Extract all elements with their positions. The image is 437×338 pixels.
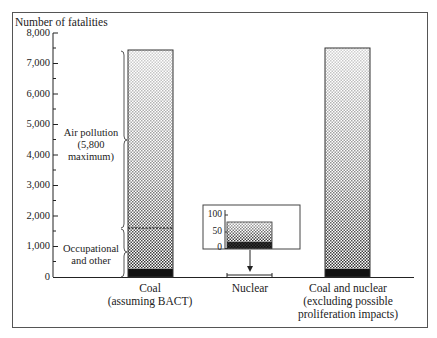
annotation-braces <box>121 51 127 277</box>
nuclear-arrow <box>247 250 253 272</box>
y-tick-7000: 7,000 <box>10 57 50 68</box>
annotation-air-line3: maximum) <box>62 151 120 163</box>
inset-tick-0: 0 <box>204 242 222 252</box>
y-tick-4000: 4,000 <box>10 149 50 160</box>
annotation-air-line2: (5,800 <box>62 139 120 151</box>
category-coal-nuclear-line1: Coal and nuclear <box>288 282 408 295</box>
y-tick-8000: 8,000 <box>10 27 50 38</box>
y-tick-6000: 6,000 <box>10 88 50 99</box>
annotation-air-pollution: Air pollution (5,800 maximum) <box>62 127 120 163</box>
category-nuclear-line1: Nuclear <box>210 282 290 295</box>
bar-coal <box>128 50 173 277</box>
inset-tick-100: 100 <box>204 209 222 219</box>
category-coal-line1: Coal <box>100 282 200 295</box>
category-coal-line2: (assuming BACT) <box>100 295 200 308</box>
inset-tick-50: 50 <box>204 226 222 236</box>
nuclear-bracket <box>227 273 272 277</box>
category-coal-nuclear-line2: (excluding possible <box>288 295 408 308</box>
y-axis <box>53 33 58 277</box>
y-tick-0: 0 <box>10 271 50 282</box>
category-coal-nuclear-line3: proliferation impacts) <box>288 308 408 321</box>
annotation-occ-line2: and other <box>62 255 120 267</box>
annotation-air-line1: Air pollution <box>62 127 120 139</box>
category-label-nuclear: Nuclear <box>210 282 290 295</box>
y-tick-2000: 2,000 <box>10 210 50 221</box>
y-tick-5000: 5,000 <box>10 118 50 129</box>
y-tick-1000: 1,000 <box>10 240 50 251</box>
bar-coal-and-nuclear <box>325 48 370 277</box>
annotation-occ-line1: Occupational <box>62 243 120 255</box>
y-tick-3000: 3,000 <box>10 179 50 190</box>
category-label-coal: Coal (assuming BACT) <box>100 282 200 308</box>
category-label-coal-and-nuclear: Coal and nuclear (excluding possible pro… <box>288 282 408 321</box>
annotation-occupational: Occupational and other <box>62 243 120 267</box>
